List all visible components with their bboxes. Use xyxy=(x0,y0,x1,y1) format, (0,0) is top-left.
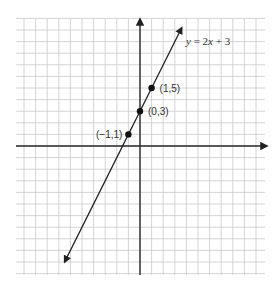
plotted-points: (−1,1)(0,3)(1,5) xyxy=(96,83,180,140)
coordinate-plane: (−1,1)(0,3)(1,5) y = 2x + 3 xyxy=(0,0,277,293)
equation-label: y = 2x + 3 xyxy=(185,35,231,47)
point-marker xyxy=(137,108,143,114)
point-marker xyxy=(125,131,131,137)
point-label: (−1,1) xyxy=(96,129,122,140)
point-label: (1,5) xyxy=(160,83,181,94)
point-label: (0,3) xyxy=(148,106,169,117)
point-marker xyxy=(148,85,154,91)
